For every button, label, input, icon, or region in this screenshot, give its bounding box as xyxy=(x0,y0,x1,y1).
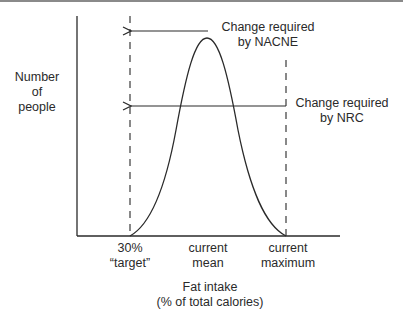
nrc-annotation: Change required by NRC xyxy=(290,96,394,126)
x-tick-target: 30% “target” xyxy=(100,241,160,271)
nacne-annotation: Change required by NACNE xyxy=(218,20,318,50)
x-tick-current-maximum: current maximum xyxy=(250,241,326,271)
y-axis-label: Number of people xyxy=(8,70,66,115)
x-tick-current-mean: current mean xyxy=(172,241,244,271)
distribution-curve xyxy=(130,38,286,236)
x-axis-title: Fat intake (% of total calories) xyxy=(148,280,272,310)
